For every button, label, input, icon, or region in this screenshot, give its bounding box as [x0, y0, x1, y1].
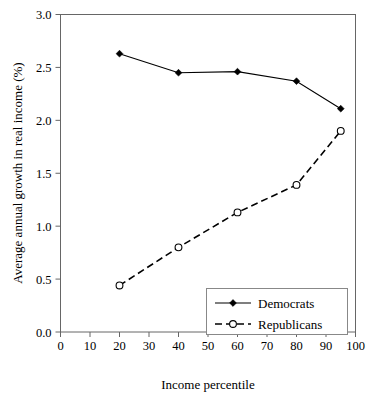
y-tick-label: 3.0 [36, 8, 52, 22]
y-tick-label: 0.5 [36, 273, 52, 287]
x-axis-title: Income percentile [161, 377, 255, 392]
data-point [337, 128, 344, 135]
y-tick-label: 1.5 [36, 167, 52, 181]
x-tick-label: 30 [143, 339, 156, 353]
x-tick-label: 70 [261, 339, 274, 353]
series-line [120, 54, 341, 109]
y-axis-title: Average annual growth in real income (%) [10, 62, 25, 283]
data-point [175, 69, 182, 76]
x-tick-label: 90 [320, 339, 333, 353]
series-republicans [116, 128, 344, 289]
y-axis-tick-labels: 0.00.51.01.52.02.53.0 [36, 8, 52, 340]
x-tick-label: 60 [231, 339, 244, 353]
data-point [116, 282, 123, 289]
line-chart: 0.00.51.01.52.02.53.0 010203040506070809… [0, 0, 379, 402]
data-point [234, 68, 241, 75]
series-line [120, 131, 341, 286]
chart-legend: DemocratsRepublicans [207, 289, 348, 335]
data-point [293, 78, 300, 85]
data-point [337, 105, 344, 112]
data-series-layer [116, 50, 344, 289]
data-point [116, 50, 123, 57]
legend-label-democrats: Democrats [258, 296, 314, 311]
plot-frame [61, 15, 356, 333]
chart-figure: 0.00.51.01.52.02.53.0 010203040506070809… [0, 0, 379, 402]
legend-marker-republicans [230, 321, 237, 328]
x-tick-label: 10 [84, 339, 97, 353]
x-axis-tick-labels: 0102030405060708090100 [57, 339, 365, 353]
x-tick-label: 100 [346, 339, 365, 353]
series-democrats [116, 50, 344, 112]
y-tick-label: 0.0 [36, 326, 52, 340]
data-point [175, 244, 182, 251]
y-tick-label: 2.5 [36, 61, 52, 75]
x-tick-label: 0 [57, 339, 63, 353]
y-tick-label: 1.0 [36, 220, 52, 234]
x-tick-label: 50 [202, 339, 215, 353]
legend-label-republicans: Republicans [258, 317, 322, 332]
x-tick-label: 40 [172, 339, 185, 353]
data-point [234, 209, 241, 216]
x-tick-label: 80 [290, 339, 303, 353]
y-axis-ticks [56, 15, 61, 333]
x-tick-label: 20 [113, 339, 126, 353]
y-tick-label: 2.0 [36, 114, 52, 128]
data-point [293, 181, 300, 188]
